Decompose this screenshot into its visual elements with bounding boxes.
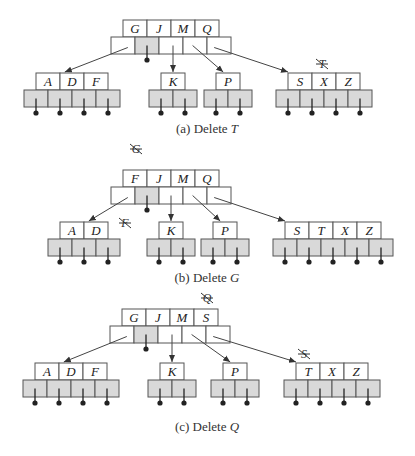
- key-label: S: [297, 74, 304, 89]
- deleted-key-marker: Q: [201, 291, 213, 305]
- leaf-node: ADF: [24, 73, 120, 116]
- key-label: M: [176, 310, 189, 325]
- null-pointer-dot-icon: [80, 400, 85, 405]
- null-pointer-dot-icon: [182, 110, 187, 115]
- leaf-node: STXZ: [273, 222, 393, 265]
- null-pointer-dot-icon: [156, 259, 161, 264]
- pointer-cell: [110, 326, 134, 343]
- null-pointer-dot-icon: [357, 110, 362, 115]
- leaf-node: K: [147, 222, 195, 265]
- null-pointer-dot-icon: [81, 259, 86, 264]
- null-pointer-dot-icon: [158, 110, 163, 115]
- key-label: A: [67, 223, 76, 238]
- caption-prefix: (b) Delete: [175, 270, 231, 285]
- child-pointer-arrow: [214, 48, 288, 73]
- null-pointer-dot-icon: [57, 110, 62, 115]
- panel-delete-t: GJMQADFKPSXZT(a) Delete T: [24, 20, 372, 136]
- pointer-cell: [183, 37, 207, 54]
- key-label: M: [177, 171, 190, 186]
- root-node: GJMQ: [111, 20, 231, 63]
- caption-prefix: (c) Delete: [175, 419, 230, 434]
- pointer-cell: [111, 187, 135, 204]
- null-pointer-dot-icon: [237, 110, 242, 115]
- deleted-key-marker: T: [316, 57, 328, 71]
- key-label: A: [43, 74, 52, 89]
- null-pointer-dot-icon: [144, 207, 149, 212]
- key-label: Z: [365, 223, 373, 238]
- key-label: K: [168, 74, 179, 89]
- pointer-cell: [182, 326, 206, 343]
- key-label: G: [129, 310, 139, 325]
- null-pointer-dot-icon: [181, 400, 186, 405]
- key-label: S: [294, 223, 301, 238]
- key-label: Q: [202, 171, 212, 186]
- null-pointer-dot-icon: [32, 400, 37, 405]
- null-pointer-dot-icon: [306, 259, 311, 264]
- caption-deleted-key: T: [231, 121, 239, 136]
- null-pointer-dot-icon: [157, 400, 162, 405]
- caption-prefix: (a) Delete: [176, 121, 231, 136]
- key-label: F: [90, 364, 100, 379]
- pointer-cell: [158, 326, 182, 343]
- key-label: A: [42, 364, 51, 379]
- caption-deleted-key: G: [230, 270, 240, 285]
- null-pointer-dot-icon: [365, 400, 370, 405]
- panel-delete-q: GJMSADFKPTXZQS(c) Delete Q: [23, 291, 380, 434]
- leaf-node: TXZ: [284, 363, 380, 406]
- key-label: D: [90, 223, 101, 238]
- null-pointer-dot-icon: [143, 346, 148, 351]
- key-label: F: [91, 74, 101, 89]
- null-pointer-dot-icon: [104, 400, 109, 405]
- leaf-node: P: [201, 222, 249, 265]
- key-label: S: [203, 310, 210, 325]
- null-pointer-dot-icon: [244, 400, 249, 405]
- key-label: P: [223, 74, 232, 89]
- deleted-key-marker: S: [298, 347, 310, 361]
- key-label: X: [319, 74, 329, 89]
- root-node: GJMS: [110, 309, 230, 352]
- panel-caption: (b) Delete G: [175, 270, 241, 285]
- null-pointer-dot-icon: [234, 259, 239, 264]
- leaf-node: P: [211, 363, 259, 406]
- pointer-cell: [111, 37, 135, 54]
- key-label: F: [130, 171, 140, 186]
- null-pointer-dot-icon: [309, 110, 314, 115]
- btree-deletion-diagram: GJMQADFKPSXZT(a) Delete T FJMQADKPSTXZGF…: [0, 0, 415, 456]
- null-pointer-dot-icon: [210, 259, 215, 264]
- child-pointer-arrow: [214, 198, 285, 222]
- key-label: P: [230, 364, 239, 379]
- key-label: P: [220, 223, 229, 238]
- key-label: X: [340, 223, 350, 238]
- null-pointer-dot-icon: [220, 400, 225, 405]
- key-label: D: [65, 364, 76, 379]
- key-label: Z: [344, 74, 352, 89]
- null-pointer-dot-icon: [378, 259, 383, 264]
- null-pointer-dot-icon: [144, 57, 149, 62]
- key-label: G: [130, 21, 140, 36]
- null-pointer-dot-icon: [81, 110, 86, 115]
- null-pointer-dot-icon: [285, 110, 290, 115]
- key-label: K: [166, 223, 177, 238]
- null-pointer-dot-icon: [33, 110, 38, 115]
- leaf-node: P: [204, 73, 252, 116]
- null-pointer-dot-icon: [56, 400, 61, 405]
- leaf-node: K: [148, 363, 196, 406]
- pointer-cell: [159, 37, 183, 54]
- key-label: T: [304, 364, 312, 379]
- leaf-node: AD: [48, 222, 120, 265]
- null-pointer-dot-icon: [317, 400, 322, 405]
- panel-delete-g: FJMQADKPSTXZGF(b) Delete G: [48, 142, 393, 285]
- deleted-key-marker: G: [130, 142, 142, 156]
- null-pointer-dot-icon: [105, 110, 110, 115]
- panel-caption: (a) Delete T: [176, 121, 239, 136]
- deleted-key-marker: F: [119, 216, 131, 230]
- key-label: T: [317, 223, 325, 238]
- key-label: X: [327, 364, 337, 379]
- child-pointer-arrow: [65, 48, 128, 73]
- leaf-node: ADF: [23, 363, 119, 406]
- key-label: M: [177, 21, 190, 36]
- null-pointer-dot-icon: [293, 400, 298, 405]
- null-pointer-dot-icon: [105, 259, 110, 264]
- child-pointer-arrow: [64, 337, 127, 363]
- caption-deleted-key: Q: [230, 419, 240, 434]
